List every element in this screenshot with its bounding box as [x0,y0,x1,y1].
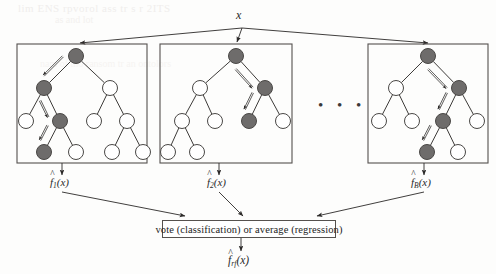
tree-3-output-label: fB(x) [411,176,431,190]
final-f: f [228,254,231,266]
tree-2-path-arrow [235,70,252,89]
tree-2-path-arrow [244,92,252,109]
tree-1-node-selected [69,49,84,64]
tree-2-node [276,114,291,129]
input-variable-label: x [236,8,241,23]
tree-1-edge [130,128,139,146]
aggregation-box-label: vote (classification) or average (regres… [156,224,343,235]
tree-3-edge [430,128,439,146]
figure-canvas: lim ENS rpvorol ass tr s r 2ITS as and l… [0,0,496,274]
tree-2-path-arrow-stroke [245,93,253,110]
tree-2-output-label: f2(x) [207,176,226,190]
ellipsis-between-trees: • • • [318,97,366,114]
input-arrow-to-tree-3 [242,28,428,43]
tree-2-f: f [207,176,210,188]
input-arrow-to-tree-1 [80,28,242,43]
tree-2-box [160,44,292,163]
tree-1-path-arrow [39,125,47,140]
tree-1-node-selected [37,145,52,160]
tree-1-node [120,114,135,129]
input-fanout-arrows [80,28,428,43]
tree-3-node [405,114,420,129]
tree-3-edge [401,61,422,82]
tree-1-node [87,114,102,129]
tree-1-node-selected [53,114,68,129]
tree-3-node-selected [452,81,467,96]
tree-3-arg: (x) [419,176,431,188]
tree-2-edge [171,128,179,145]
tree-edges [30,61,474,145]
tree-1-node [103,81,118,96]
tree-2-node [175,114,190,129]
tree-2-node [193,81,208,96]
tree-2-node [161,145,176,160]
tree-2-node [208,114,223,129]
tree-1-f: f [50,176,53,188]
tree-1-node-selected [37,81,52,96]
tree-3-path-arrow [438,92,446,109]
tree-1-arg: (x) [57,176,69,188]
tree-1-path-arrow [39,101,47,118]
tree-2-edge [203,95,212,114]
decision-path-arrows [39,56,447,141]
tree-2-arg: (x) [214,176,226,188]
tree-3-node [470,114,485,129]
tree-3-edge [382,95,392,115]
tree-1-node [136,145,151,160]
tree-1-node [69,145,84,160]
input-arrow-to-tree-2 [237,28,242,42]
tree-1-node [19,114,34,129]
merge-arrow-2 [219,192,243,216]
tree-1-edge [97,95,106,115]
tree-2-node-selected [258,81,273,96]
tree-2-edge [186,95,197,115]
tree-2-node-selected [242,114,257,129]
tree-3-f: f [411,176,414,188]
tree-3-edge [433,61,454,82]
tree-1-edge [113,95,123,115]
tree-3-node [389,81,404,96]
tree-2-node-selected [229,49,244,64]
tree-3-edge [446,128,454,145]
tree-1-path-arrow-stroke [41,126,49,141]
tree-3-path-arrow-stroke [424,126,432,141]
tree-1-edge [30,95,41,115]
merge-arrow-3 [317,192,424,216]
tree-2-path-arrow-stroke [236,69,253,88]
tree-2-edge [269,95,280,115]
final-arg: (x) [236,254,249,266]
tree-3-node-selected [420,145,435,160]
tree-1-edge [47,128,56,146]
aggregation-box: vote (classification) or average (regres… [162,220,336,238]
tree-1-edge [63,128,72,146]
tree-2-edge [185,128,193,145]
merge-arrow-1 [62,192,185,216]
tree-1-path-arrow-stroke [44,57,63,76]
tree-1-path-arrow-stroke [41,100,49,117]
tree-3-node [372,114,387,129]
tree-3-path-arrow-stroke [439,93,447,110]
tree-3-edge [463,95,474,115]
tree-3-node-selected [421,49,436,64]
tree-1-edge [81,61,104,83]
tree-2-node [190,145,205,160]
tree-1-edge [115,128,123,145]
tree-3-edge [446,95,455,115]
tree-1-edge [47,95,56,115]
merge-arrows [62,192,424,216]
tree-1-output-label: f1(x) [50,176,69,190]
tree-3-edge [399,95,408,115]
tree-3-path-arrow [428,70,446,89]
tree-boxes [17,44,488,163]
tree-output-arrows [62,163,424,175]
tree-3-path-arrow [422,125,430,140]
input-variable-text: x [236,8,241,22]
tree-3-node-selected [436,114,451,129]
tree-3-path-arrow-stroke [429,69,447,88]
tree-1-edge [49,61,70,82]
tree-2-edge [252,95,261,115]
tree-1-node [105,145,120,160]
final-output-label: frf(x) [228,254,249,268]
tree-3-node [451,145,466,160]
tree-nodes [19,49,485,160]
